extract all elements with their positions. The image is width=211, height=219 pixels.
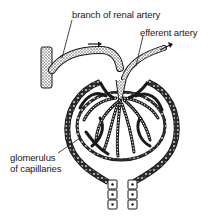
label-glomerulus: glomerulus of capillaries	[10, 152, 61, 174]
label-glomerulus-line1: glomerulus	[10, 152, 61, 163]
glomerulus-diagram: branch of renal artery efferent artery g…	[0, 0, 211, 219]
efferent-arteriole	[124, 48, 164, 78]
label-glomerulus-line2: of capillaries	[10, 163, 61, 174]
label-renal-artery: branch of renal artery	[72, 9, 160, 20]
label-efferent-artery: efferent artery	[140, 27, 197, 38]
glomerular-capillaries	[77, 80, 165, 160]
afferent-arteriole	[52, 50, 120, 70]
afferent-flow-arrow-icon	[88, 42, 102, 47]
